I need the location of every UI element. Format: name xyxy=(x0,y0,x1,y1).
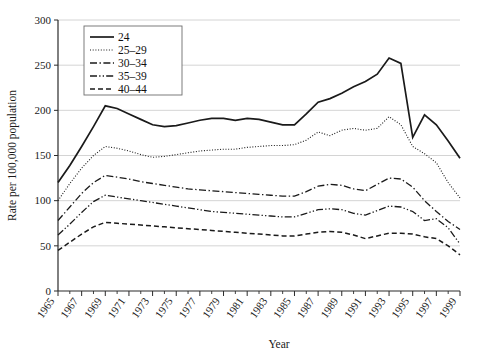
y-tick-label-200: 200 xyxy=(35,104,52,116)
y-tick-label-300: 300 xyxy=(35,14,52,26)
y-tick-label-150: 150 xyxy=(35,149,52,161)
series-line-30-34 xyxy=(58,175,460,229)
x-tick-label-1993: 1993 xyxy=(365,295,388,320)
x-axis-title: Year xyxy=(268,338,289,350)
line-chart: 050100150200250300Rate per 100,000 popul… xyxy=(0,0,482,356)
x-tick-label-1999: 1999 xyxy=(436,295,459,320)
x-tick-label-1981: 1981 xyxy=(223,295,245,320)
legend-label-40-44: 40–44 xyxy=(118,83,147,95)
y-tick-label-50: 50 xyxy=(40,240,52,252)
x-tick-label-1975: 1975 xyxy=(152,295,175,320)
x-tick-label-1973: 1973 xyxy=(129,295,152,320)
x-tick-label-1989: 1989 xyxy=(318,295,341,320)
chart-figure: 050100150200250300Rate per 100,000 popul… xyxy=(0,0,482,356)
series-line-40-44 xyxy=(58,222,460,255)
series-line-35-39 xyxy=(58,195,460,244)
x-tick-label-1977: 1977 xyxy=(176,295,199,320)
x-tick-label-1965: 1965 xyxy=(34,295,57,320)
x-tick-label-1979: 1979 xyxy=(200,295,223,320)
y-tick-label-250: 250 xyxy=(35,59,52,71)
x-tick-label-1983: 1983 xyxy=(247,295,270,320)
x-tick-label-1985: 1985 xyxy=(271,295,294,320)
series-line-25-29 xyxy=(58,117,460,201)
x-tick-label-1987: 1987 xyxy=(294,295,317,320)
y-axis-title: Rate per 100,000 population xyxy=(6,90,19,221)
legend-label-25-29: 25–29 xyxy=(118,44,147,56)
x-tick-label-1995: 1995 xyxy=(389,295,412,320)
legend-label-30-34: 30–34 xyxy=(118,57,147,69)
legend: 2425–2930–3435–3940–44 xyxy=(84,26,182,95)
x-axis: 1965196719691971197319751977197919811983… xyxy=(34,291,460,350)
x-tick-label-1971: 1971 xyxy=(105,295,127,320)
y-axis: 050100150200250300Rate per 100,000 popul… xyxy=(6,14,58,297)
x-tick-label-1969: 1969 xyxy=(81,295,104,320)
x-tick-label-1997: 1997 xyxy=(413,295,436,320)
y-tick-label-100: 100 xyxy=(35,194,52,206)
x-tick-label-1991: 1991 xyxy=(342,295,364,320)
legend-label-24: 24 xyxy=(118,31,130,43)
legend-label-35-39: 35–39 xyxy=(118,70,147,82)
x-tick-label-1967: 1967 xyxy=(58,295,81,320)
